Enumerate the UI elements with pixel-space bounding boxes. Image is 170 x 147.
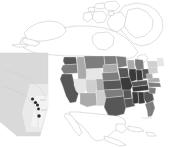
region-arizona[interactable] [80, 93, 97, 107]
region-arctic-islet-b [108, 11, 114, 16]
region-minnesota[interactable] [116, 56, 127, 68]
inset-point-4[interactable] [37, 108, 40, 111]
region-north-dakota[interactable] [104, 56, 117, 65]
inset-point-3[interactable] [36, 104, 39, 107]
region-south-dakota[interactable] [103, 64, 118, 73]
region-ellesmere-island [103, 1, 120, 11]
region-arkansas[interactable] [123, 90, 132, 99]
region-mississippi[interactable] [132, 92, 139, 104]
region-wyoming[interactable] [86, 69, 103, 80]
inset-point-5[interactable] [37, 114, 40, 117]
region-bermuda [142, 117, 152, 119]
region-indiana[interactable] [136, 70, 143, 81]
region-arctic-islet-a [94, 3, 105, 9]
region-nebraska[interactable] [102, 72, 120, 81]
region-kansas[interactable] [103, 80, 122, 90]
region-wisconsin[interactable] [127, 60, 135, 70]
region-montana[interactable] [84, 56, 105, 69]
region-central-america [104, 136, 126, 146]
region-yucatan [116, 124, 127, 133]
region-hispaniola [146, 132, 156, 136]
map-canvas[interactable] [0, 0, 170, 147]
map-figure [0, 0, 170, 147]
region-utah[interactable] [86, 79, 97, 93]
region-new-york[interactable] [147, 61, 158, 67]
region-arctic-islet-c [88, 7, 95, 12]
region-banks-island [83, 12, 93, 22]
region-washington[interactable] [63, 57, 77, 65]
region-new-england[interactable] [157, 58, 164, 66]
region-pennsylvania[interactable] [148, 67, 158, 74]
region-iowa[interactable] [118, 68, 129, 78]
region-cuba [128, 126, 144, 132]
region-south-carolina[interactable] [149, 87, 156, 94]
region-oregon[interactable] [61, 64, 78, 74]
region-texas[interactable] [104, 96, 127, 116]
inset-point-2[interactable] [34, 101, 37, 104]
region-victoria-island [92, 11, 107, 23]
inset-point-1[interactable] [31, 98, 34, 101]
region-north-carolina[interactable] [148, 82, 161, 87]
region-florida[interactable] [145, 101, 155, 117]
